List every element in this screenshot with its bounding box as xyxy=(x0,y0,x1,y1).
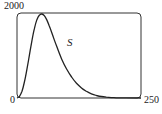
x-max-tick-label: 250 xyxy=(144,95,159,105)
series-label-s: S xyxy=(67,36,73,48)
origin-tick-label: 0 xyxy=(10,95,15,105)
y-max-tick-label: 2000 xyxy=(4,1,24,11)
series-s-curve xyxy=(17,14,141,98)
chart-canvas xyxy=(0,0,162,114)
